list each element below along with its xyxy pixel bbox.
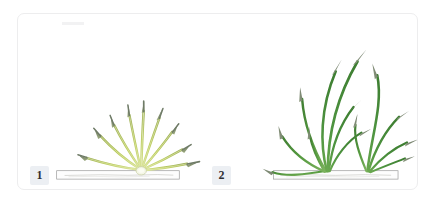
blade-l2 (278, 126, 324, 172)
sprout-7 (142, 124, 179, 169)
figure-panel-2: 2 (208, 14, 418, 189)
figure-card: 1 (17, 13, 418, 190)
sprout-4 (127, 105, 140, 169)
blade-r3 (369, 140, 417, 172)
grass-tuft-left (263, 50, 372, 176)
sprout-1 (78, 155, 140, 170)
soil-strip-2 (273, 171, 398, 179)
soil-strip-1 (57, 171, 180, 179)
sprout-3 (110, 115, 141, 169)
mature-grass-illustration (208, 14, 418, 189)
figure-panel-1: 1 (18, 14, 213, 189)
blade-r1 (367, 63, 379, 171)
blade-l1 (263, 169, 324, 175)
sprout-5 (141, 101, 144, 169)
sprout-6 (142, 108, 163, 169)
blade-l4 (322, 59, 341, 171)
blade-l5 (328, 50, 367, 172)
step-badge-2: 2 (212, 166, 231, 185)
blade-l3 (299, 87, 326, 171)
seed (136, 167, 146, 175)
blade-l6 (329, 99, 363, 171)
sprout-fan (78, 101, 200, 170)
sprout-9 (143, 162, 200, 171)
blade-l7 (330, 129, 372, 172)
grass-tuft-right (353, 63, 418, 172)
blade-l8 (308, 127, 325, 172)
step-badge-1: 1 (30, 166, 49, 185)
blade-r5 (370, 156, 414, 172)
germination-illustration (18, 14, 213, 189)
sprout-8 (143, 145, 191, 170)
blade-r4 (353, 114, 366, 171)
blade-r2 (368, 111, 409, 171)
sprout-2 (94, 128, 140, 169)
